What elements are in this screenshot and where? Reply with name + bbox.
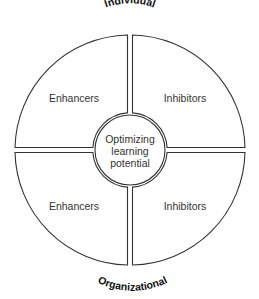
quadrant-label-top-right: Inhibitors <box>164 92 207 104</box>
center-text-line3: potential <box>110 157 150 169</box>
center-text-line1: Optimizing <box>105 133 155 145</box>
bottom-axis-label: Organizational <box>96 273 168 292</box>
top-axis-label: Individual <box>103 0 158 9</box>
learning-potential-diagram: Enhancers Inhibitors Enhancers Inhibitor… <box>0 0 259 299</box>
quadrant-label-bottom-left: Enhancers <box>49 200 99 212</box>
quadrant-label-bottom-right: Inhibitors <box>164 200 207 212</box>
quadrant-label-top-left: Enhancers <box>49 92 99 104</box>
center-text-line2: learning <box>111 145 149 157</box>
